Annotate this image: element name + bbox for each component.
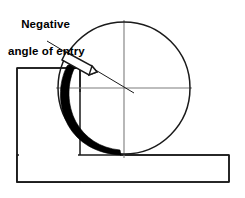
callout-line-2: angle of entry [8,45,85,59]
welding-angle-diagram: Negative angle of entry [0,0,245,198]
bottom-workpiece-interior-mask [19,157,227,180]
callout-label: Negative angle of entry [8,4,85,85]
callout-line-1: Negative [21,18,70,30]
workpiece-group [17,68,229,182]
